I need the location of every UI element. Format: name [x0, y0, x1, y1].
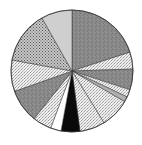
pie-slices — [11, 10, 133, 132]
pie-chart — [0, 0, 142, 145]
